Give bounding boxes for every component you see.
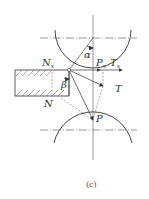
label-Nx: Nx	[41, 57, 55, 69]
label-N: N	[43, 98, 54, 109]
P-arrow	[69, 70, 93, 120]
rolling-force-diagram: Nx α Px Tx T β N P (c)	[0, 0, 149, 199]
label-beta: β	[60, 79, 67, 90]
label-T: T	[115, 83, 123, 94]
label-alpha: α	[84, 49, 91, 60]
N-dashed	[61, 98, 93, 120]
label-P: P	[95, 113, 103, 124]
label-Tx: Tx	[110, 57, 121, 69]
label-Px: Px	[95, 57, 107, 69]
T-arrow	[69, 70, 103, 86]
alpha-angle-arc	[87, 46, 93, 48]
figure-caption: (c)	[86, 180, 97, 189]
contact-point	[67, 68, 70, 71]
